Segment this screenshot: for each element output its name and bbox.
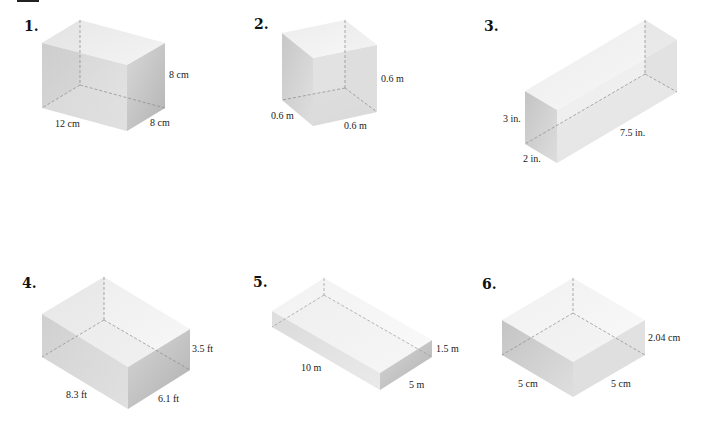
prism-3-width-label: 2 in. — [523, 153, 541, 164]
prism-4-height-label: 3.5 ft — [192, 343, 213, 354]
prism-6-left-label: 5 cm — [518, 378, 538, 389]
problem-number-6: 6. — [482, 276, 497, 292]
prism-2 — [282, 20, 377, 126]
prism-2-bottom-label: 0.6 m — [344, 120, 367, 131]
prism-1-length-label: 12 cm — [55, 118, 80, 129]
prism-6-right-label: 5 cm — [611, 378, 631, 389]
problem-number-4: 4. — [22, 275, 37, 291]
prism-2-left-label: 0.6 m — [271, 110, 294, 121]
prism-1-height-label: 8 cm — [169, 69, 189, 80]
prism-3 — [525, 20, 677, 163]
prism-2-height-label: 0.6 m — [381, 73, 404, 84]
prism-5-width-label: 5 m — [409, 379, 424, 390]
prism-5-length-label: 10 m — [301, 362, 321, 373]
prism-1-width-label: 8 cm — [150, 117, 170, 128]
prism-4-width-label: 6.1 ft — [158, 393, 179, 404]
prism-1 — [42, 20, 165, 131]
problem-number-1: 1. — [24, 18, 39, 34]
problem-number-2: 2. — [254, 16, 269, 32]
prism-5 — [272, 278, 432, 390]
prism-3-length-label: 7.5 in. — [620, 127, 645, 138]
prisms-drawing — [0, 0, 701, 421]
prism-6-height-label: 2.04 cm — [648, 332, 680, 343]
problem-number-5: 5. — [253, 274, 268, 290]
problem-number-3: 3. — [484, 18, 499, 34]
prism-4 — [42, 277, 190, 409]
prism-5-height-label: 1.5 m — [436, 343, 459, 354]
prism-4-length-label: 8.3 ft — [66, 389, 87, 400]
prism-3-height-label: 3 in. — [503, 113, 521, 124]
